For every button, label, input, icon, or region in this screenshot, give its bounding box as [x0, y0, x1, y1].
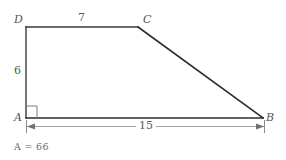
edge-CB [138, 27, 263, 118]
vertex-label-C: C [143, 14, 151, 25]
vertex-label-A: A [14, 112, 22, 123]
vertex-label-D: D [14, 14, 23, 25]
dimension-arrow-right-icon [256, 123, 264, 129]
measure-label-top-side: 7 [78, 12, 85, 23]
dimension-arrow-left-icon [27, 123, 35, 129]
vertex-label-B: B [266, 112, 274, 123]
geometry-figure-canvas: D C A B 7 6 15 A = 66 [0, 0, 286, 160]
measure-label-left-side: 6 [14, 65, 21, 76]
right-angle-marker-icon [26, 106, 37, 118]
measure-label-base-dimension: 15 [139, 120, 153, 131]
area-statement: A = 66 [14, 142, 49, 152]
